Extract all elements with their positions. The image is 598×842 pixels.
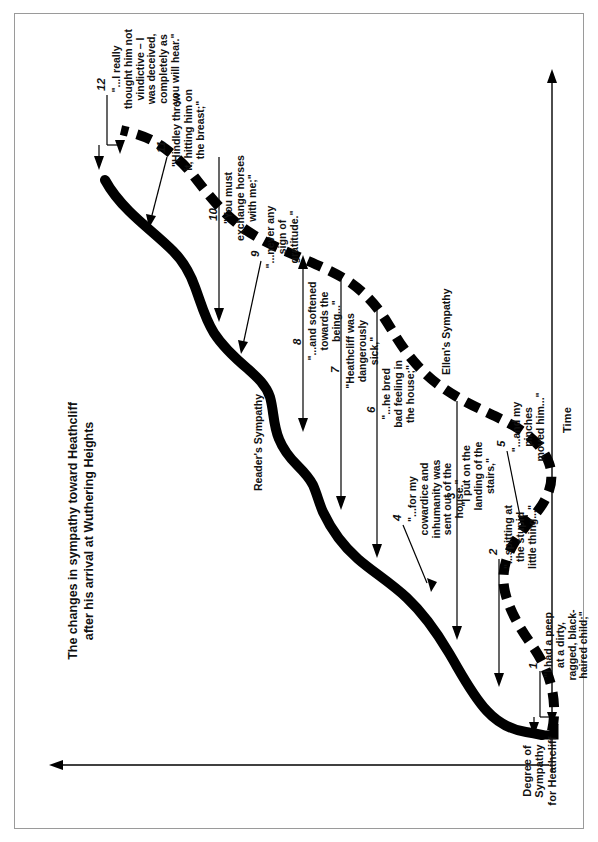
annotation-quote-12: "...I really thought him not vindictive … (111, 11, 182, 127)
annotation-number-5: 5 (495, 441, 508, 447)
annotation-number-1: 1 (527, 663, 540, 669)
y-axis-arrow (49, 760, 549, 770)
annotation-quote-5: "...and my pinches moved him..." (511, 377, 546, 477)
annotation-quote-3: "I put on the landing of the stairs," (461, 421, 496, 531)
scanned-page: The changes in sympathy toward Heathclif… (0, 0, 598, 842)
series-label-readers-sympathy: Reader's Sympathy (253, 394, 265, 491)
figure: The changes in sympathy toward Heathclif… (21, 21, 577, 821)
annotation-number-12: 12 (95, 78, 108, 91)
annotation-number-11: 11 (155, 141, 168, 153)
figure-title: The changes in sympathy toward Heathclif… (65, 381, 98, 681)
annotation-number-8: 8 (291, 339, 304, 345)
annotation-number-10: 10 (207, 208, 220, 221)
annotation-quote-4: "...for my cowardice and inhumanity was … (407, 443, 466, 555)
leader-11 (146, 157, 167, 228)
x-axis-title: Time (561, 373, 573, 433)
annotation-quote-6: "...he bred bad feeling in the house;" (381, 343, 416, 445)
annotation-number-4: 4 (391, 515, 404, 521)
annotation-quote-8: "...and softened towards the being..." (307, 263, 342, 379)
annotation-quote-9: "...never any sign of gratitude." (265, 187, 300, 287)
figure-rotated-wrapper: The changes in sympathy toward Heathclif… (21, 21, 577, 821)
y-axis-title: Degree of Sympathy for Heathcliff (521, 725, 558, 817)
annotation-number-2: 2 (487, 549, 500, 555)
leader-9 (238, 261, 261, 354)
annotation-quote-1: "I had a peep at a dirty, ragged, black-… (543, 591, 590, 699)
annotation-quote-2: "...spitting at the stupid little thing.… (503, 485, 538, 589)
annotation-quote-7: "Heathcliff was dangerously sick," (345, 295, 380, 407)
annotation-number-6: 6 (365, 407, 378, 413)
annotation-quote-10: "You must exchange horses with me;" (223, 137, 258, 259)
series-label-ellens-sympathy: Ellen's Sympathy (441, 288, 453, 375)
